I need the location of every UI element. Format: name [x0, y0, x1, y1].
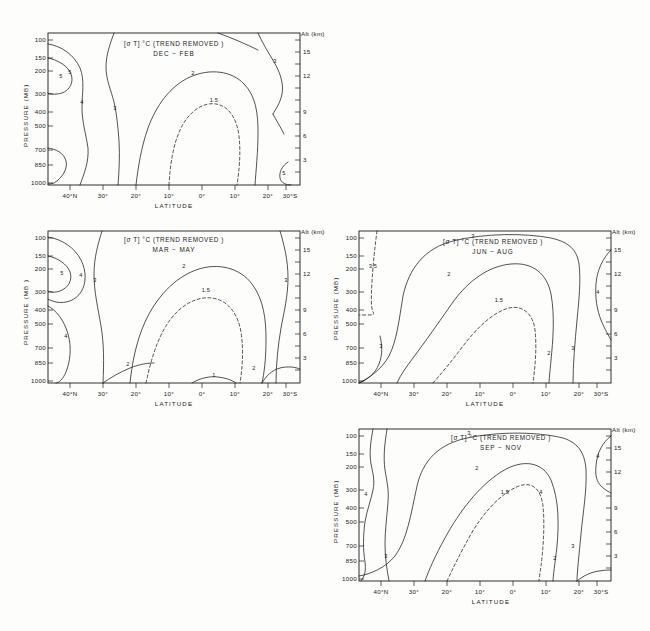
altitude-axis-title: Alt (km) — [612, 228, 636, 235]
contour-1point5 — [169, 104, 240, 185]
pressure-tick-labels: 100 150 200 300 400 500 700 850 1000 — [342, 432, 357, 582]
contour-label: 2 — [126, 361, 129, 367]
contour-label: 3 — [284, 277, 287, 283]
pressure-tick: 200 — [346, 463, 357, 470]
pressure-tick: 400 — [346, 504, 357, 511]
pressure-tick: 500 — [35, 122, 46, 129]
latitude-tick: 20° — [263, 390, 273, 397]
latitude-tick: 30° — [409, 588, 419, 595]
pressure-tick: 850 — [35, 359, 46, 366]
latitude-tick: 40°N — [62, 192, 77, 199]
contour-value-labels: 5 4 4 3 2 1.5 2 1 2 3 — [60, 263, 287, 378]
latitude-tick-labels: 40°N 30° 20° 10° 0° 10° 20° 30°S — [62, 192, 297, 199]
latitude-tick: 10° — [541, 588, 551, 595]
pressure-axis-ticks — [48, 40, 53, 183]
latitude-tick: 10° — [230, 390, 240, 397]
panel-title: [σ T] °C (TREND REMOVED ) — [124, 40, 224, 48]
latitude-tick: 0° — [510, 390, 517, 397]
contour-4-upper — [48, 237, 85, 303]
pressure-tick-labels: 100 150 200 300 400 500 700 850 1000 — [31, 36, 46, 186]
latitude-tick: 30° — [98, 390, 108, 397]
contour-5-lower — [48, 148, 66, 184]
contour-label: 2 — [252, 365, 255, 371]
pressure-tick: 100 — [346, 432, 357, 439]
plot-frame — [359, 429, 611, 581]
contour-label: 3 — [384, 553, 387, 559]
altitude-tick: 12 — [303, 72, 311, 79]
pressure-tick: 850 — [35, 161, 46, 168]
pressure-tick: 100 — [35, 234, 46, 241]
latitude-tick: 0° — [199, 192, 206, 199]
pressure-tick: 700 — [35, 146, 46, 153]
contour-1point5 — [146, 298, 243, 383]
altitude-axis-ticks — [295, 40, 300, 172]
latitude-tick: 0° — [510, 588, 517, 595]
contour-value-labels: 5 4 3 2 1.5 3 5 5 — [59, 58, 285, 176]
altitude-tick: 3 — [614, 552, 618, 559]
pressure-axis-title: PRESSURE (MB) — [22, 84, 29, 147]
latitude-tick: 30°S — [594, 588, 609, 595]
pressure-tick: 200 — [35, 67, 46, 74]
panel-title: [σ T] °C (TREND REMOVED ) — [443, 238, 543, 246]
latitude-tick-labels: 40°N 30° 20° 10° 0° 10° 20° 30°S — [373, 588, 608, 595]
contour-3-hook — [359, 336, 382, 383]
pressure-tick: 1000 — [31, 179, 46, 186]
panel-subtitle: SEP − NOV — [480, 444, 522, 451]
contour-3-south — [258, 33, 283, 114]
pressure-axis-title: PRESSURE (MB) — [332, 480, 339, 543]
latitude-tick: 10° — [475, 588, 485, 595]
altitude-tick: 15 — [303, 48, 311, 55]
contour-4 — [48, 44, 88, 185]
contour-2 — [397, 264, 553, 383]
contour-2 — [425, 464, 558, 581]
altitude-tick: 3 — [614, 354, 618, 361]
altitude-tick: 9 — [303, 306, 307, 313]
latitude-tick: 30°S — [283, 390, 298, 397]
contour-3-north — [94, 231, 104, 383]
latitude-tick: 40°N — [373, 390, 388, 397]
latitude-tick: 10° — [541, 390, 551, 397]
altitude-tick: 15 — [614, 246, 622, 253]
altitude-axis-title: Alt (km) — [301, 30, 325, 37]
latitude-tick: 20° — [442, 588, 452, 595]
pressure-tick: 200 — [35, 265, 46, 272]
altitude-axis-ticks — [295, 238, 300, 370]
latitude-tick-labels: 40°N 30° 20° 10° 0° 10° 20° 30°S — [373, 390, 608, 397]
pressure-tick: 150 — [346, 252, 357, 259]
latitude-axis-ticks — [381, 581, 597, 586]
contour-lines — [359, 429, 611, 581]
pressure-axis-ticks — [359, 238, 364, 381]
pressure-tick: 400 — [346, 306, 357, 313]
contour-label: 3 — [379, 343, 382, 349]
altitude-tick: 3 — [303, 354, 307, 361]
latitude-tick: 40°N — [62, 390, 77, 397]
altitude-tick-labels: 15 12 9 6 3 — [614, 246, 622, 361]
contour-label: 4 — [596, 289, 599, 295]
altitude-tick: 15 — [303, 246, 311, 253]
altitude-tick-labels: 15 12 9 6 3 — [303, 246, 311, 361]
plot-area-dec-feb: 100 150 200 300 400 500 700 850 1000 PRE… — [22, 30, 325, 209]
pressure-tick: 100 — [346, 234, 357, 241]
contour-1point5 — [433, 307, 536, 383]
latitude-tick: 10° — [164, 390, 174, 397]
contour-2-south — [262, 367, 300, 383]
contour-label: 1.5 — [495, 297, 503, 303]
contour-label: 2 — [182, 263, 185, 269]
altitude-tick: 9 — [614, 306, 618, 313]
altitude-tick: 12 — [614, 270, 622, 277]
pressure-axis-ticks — [48, 238, 53, 381]
latitude-tick: 20° — [263, 192, 273, 199]
contour-label: 2 — [553, 555, 556, 561]
contour-label: 3 — [273, 58, 276, 64]
contour-2-south — [577, 570, 611, 581]
contour-label: 1.5 — [210, 97, 218, 103]
latitude-tick: 10° — [230, 192, 240, 199]
pressure-tick: 150 — [35, 54, 46, 61]
altitude-tick: 6 — [303, 330, 307, 337]
pressure-tick: 700 — [35, 344, 46, 351]
latitude-tick: 20° — [442, 390, 452, 397]
panel-subtitle: MAR − MAY — [153, 246, 196, 253]
contour-label: 5 — [59, 73, 62, 79]
contour-label: 3.5 — [369, 263, 377, 269]
contour-3point5 — [359, 231, 377, 315]
